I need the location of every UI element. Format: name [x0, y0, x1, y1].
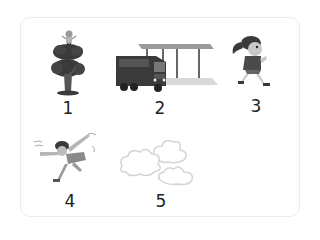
- tree-with-child-icon: [50, 28, 86, 96]
- item-4-picture: [32, 130, 102, 188]
- item-1-number: 1: [63, 100, 74, 117]
- running-girl-icon: [229, 34, 273, 92]
- item-1-picture: [50, 28, 86, 96]
- item-2-number: 2: [155, 100, 166, 117]
- item-2-picture: [114, 40, 218, 94]
- item-4-number: 4: [65, 193, 76, 210]
- windblown-girl-icon: [32, 130, 102, 188]
- clouds-icon: [118, 136, 198, 188]
- bus-stop-icon: [114, 40, 218, 94]
- item-3-picture: [229, 34, 273, 92]
- item-5-picture: [118, 136, 198, 188]
- item-3-number: 3: [251, 98, 262, 115]
- item-5-number: 5: [156, 193, 167, 210]
